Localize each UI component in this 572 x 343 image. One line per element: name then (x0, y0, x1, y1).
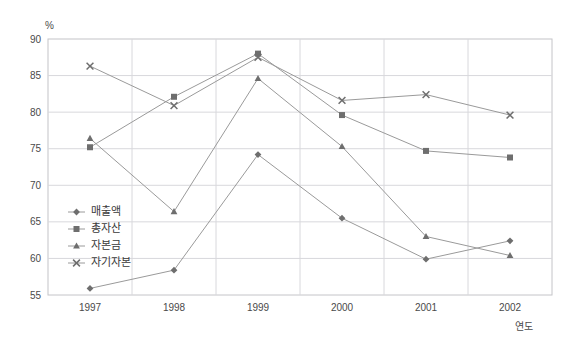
data-point-매출액-1997 (87, 285, 94, 292)
x-axis-tick-label: 1999 (247, 302, 270, 313)
y-axis-tick-label: 60 (30, 253, 42, 264)
y-axis-tick-label: 75 (30, 143, 42, 154)
data-point-자기자본-2002 (507, 112, 514, 119)
y-axis-tick-label: 85 (30, 70, 42, 81)
data-point-매출액-2001 (423, 256, 430, 263)
x-axis-tick-label: 2000 (331, 302, 354, 313)
data-point-자기자본-1998 (171, 102, 178, 109)
legend-marker-square (74, 226, 80, 232)
legend-label: 자본금 (91, 239, 121, 251)
x-axis-tick-label: 2002 (499, 302, 522, 313)
data-point-자본금-1997 (87, 135, 94, 141)
y-axis-tick-label: 55 (30, 290, 42, 301)
data-point-매출액-2002 (507, 237, 514, 244)
legend-label: 자기자본 (91, 256, 131, 268)
legend-item-매출액: 매출액 (68, 205, 121, 217)
data-point-총자산-2000 (339, 112, 345, 118)
y-axis-tick-label: 70 (30, 180, 42, 191)
legend-item-자본금: 자본금 (68, 239, 121, 251)
data-point-총자산-1997 (87, 144, 93, 150)
data-point-총자산-2001 (423, 148, 429, 154)
x-axis-tick-label: 1998 (163, 302, 186, 313)
data-point-총자산-2002 (507, 154, 513, 160)
legend-item-총자산: 총자산 (68, 222, 121, 234)
legend-label: 매출액 (91, 205, 121, 217)
chart-plot-area: 5560657075808590199719981999200020012002… (0, 0, 572, 343)
y-axis-tick-label: 80 (30, 107, 42, 118)
legend-label: 총자산 (91, 222, 121, 234)
y-axis-tick-label: 65 (30, 216, 42, 227)
data-point-자본금-2000 (339, 143, 346, 149)
legend-marker-diamond (73, 209, 80, 216)
line-chart: % 연도 55606570758085901997199819992000200… (0, 0, 572, 343)
data-point-매출액-1998 (171, 267, 178, 274)
x-axis-tick-label: 1997 (79, 302, 102, 313)
x-axis-tick-label: 2001 (415, 302, 438, 313)
y-axis-tick-label: 90 (30, 34, 42, 45)
data-point-자기자본-1997 (87, 63, 94, 70)
data-point-총자산-1998 (171, 94, 177, 100)
